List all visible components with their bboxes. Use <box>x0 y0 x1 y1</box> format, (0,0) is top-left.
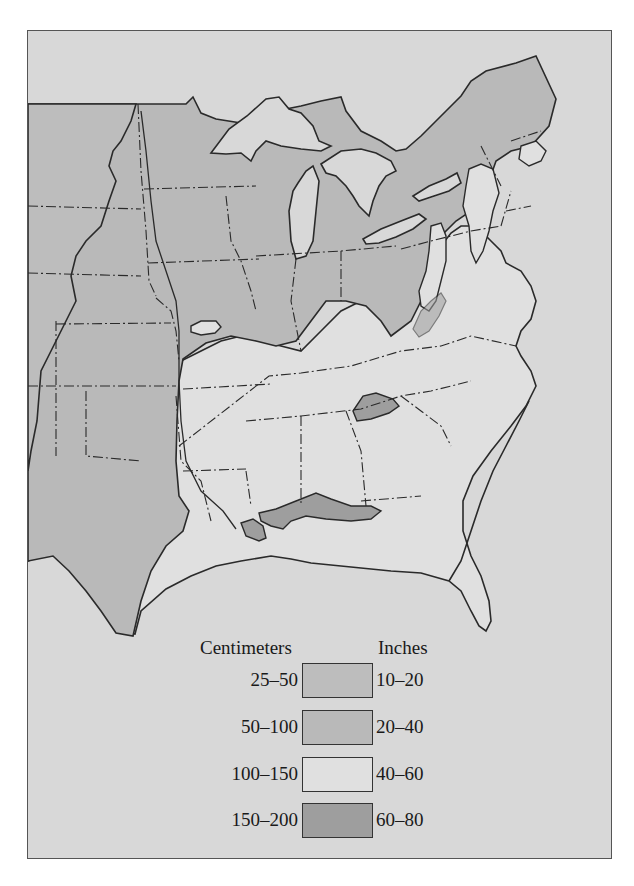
legend-cm-value: 50–100 <box>241 716 298 738</box>
legend-in-value: 40–60 <box>376 763 424 785</box>
legend-cm-value: 150–200 <box>232 809 299 831</box>
region-40-60-nh <box>519 141 546 166</box>
legend-in-value: 60–80 <box>376 809 424 831</box>
legend-cm-header: Centimeters <box>200 637 292 659</box>
legend-in-value: 20–40 <box>376 716 424 738</box>
legend-swatch <box>302 710 373 745</box>
legend-cm-value: 25–50 <box>251 669 299 691</box>
legend-in-value: 10–20 <box>376 669 424 691</box>
legend-item-60-80: 150–200 60–80 <box>0 803 634 839</box>
legend-swatch <box>302 757 373 792</box>
legend-in-header: Inches <box>378 637 428 659</box>
legend-item-40-60: 100–150 40–60 <box>0 757 634 793</box>
legend-item-20-40: 50–100 20–40 <box>0 710 634 746</box>
legend-cm-value: 100–150 <box>232 763 299 785</box>
legend-swatch <box>302 803 373 838</box>
legend-swatch <box>302 663 373 698</box>
legend-item-10-20: 25–50 10–20 <box>0 663 634 699</box>
